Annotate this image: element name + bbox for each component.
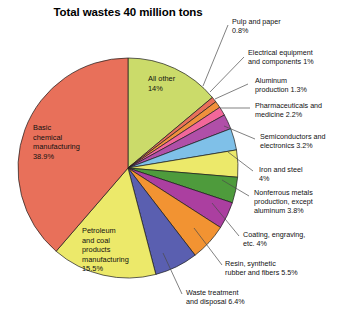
slice-label-iron-and-steel: Iron and steel 4% bbox=[259, 165, 341, 183]
leader-line-aluminum bbox=[215, 84, 248, 99]
slice-label-resin-synthetic-rubber: Resin, synthetic rubber and fibers 5.5% bbox=[225, 259, 341, 277]
slice-label-aluminum-production: Aluminum production 1.3% bbox=[255, 76, 343, 94]
slice-label-semiconductors: Semiconductors and electronics 3.2% bbox=[260, 132, 344, 150]
slice-label-electrical-equipment: Electrical equipment and components 1% bbox=[248, 48, 342, 66]
slice-label-pharmaceuticals: Pharmaceuticals and medicine 2.2% bbox=[255, 101, 344, 119]
slice-label-coating-engraving: Coating, engraving, etc. 4% bbox=[243, 230, 339, 248]
slice-label-basic-chemical-manufacturing: Basic chemical manufacturing 38.9% bbox=[33, 123, 111, 161]
pie-chart-figure: Total wastes 40 million tons All other 1… bbox=[0, 0, 344, 319]
slice-label-pulp-and-paper: Pulp and paper 0.8% bbox=[232, 17, 338, 35]
slice-label-waste-treatment: Waste treatment and disposal 6.4% bbox=[186, 288, 296, 306]
slice-label-nonferrous-metals: Nonferrous metals production, except alu… bbox=[254, 188, 342, 216]
slice-label-petroleum-and-coal: Petroleum and coal products manufacturin… bbox=[82, 226, 154, 274]
slice-label-all-other: All other 14% bbox=[148, 74, 218, 93]
